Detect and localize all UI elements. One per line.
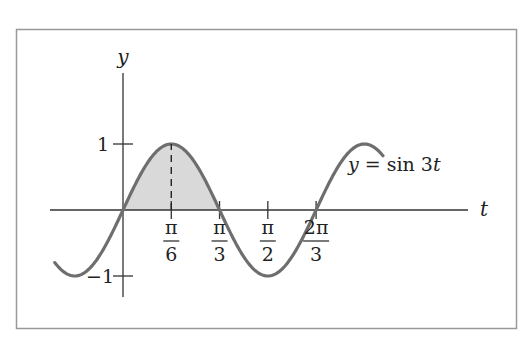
t-tick-numerator: 2π bbox=[304, 216, 329, 238]
t-tick-numerator: π bbox=[165, 216, 178, 238]
sine-chart: y t 1 −1 y = sin 3t π6π3π22π3 bbox=[0, 0, 530, 344]
t-tick-denominator: 6 bbox=[165, 243, 177, 265]
t-tick-numerator: π bbox=[213, 216, 226, 238]
y-tick-label-1: 1 bbox=[97, 133, 109, 155]
y-axis-label: y bbox=[116, 45, 129, 69]
t-tick-denominator: 3 bbox=[310, 243, 322, 265]
t-tick-numerator: π bbox=[262, 216, 275, 238]
y-tick-label-neg1: −1 bbox=[86, 265, 114, 287]
t-tick-denominator: 2 bbox=[262, 243, 274, 265]
t-tick-denominator: 3 bbox=[214, 243, 226, 265]
equation-label: y = sin 3t bbox=[347, 153, 441, 175]
t-axis-label: t bbox=[480, 197, 489, 221]
